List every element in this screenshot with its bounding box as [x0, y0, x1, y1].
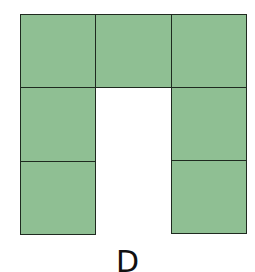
square-r2-c0 — [20, 161, 96, 235]
square-r0-c1 — [95, 14, 172, 88]
figure-label: D — [0, 247, 255, 272]
square-r2-c2 — [171, 160, 247, 234]
square-r0-c2 — [171, 14, 247, 88]
square-r1-c0 — [20, 87, 96, 162]
square-r1-c2 — [171, 87, 247, 162]
square-r0-c0 — [20, 14, 96, 88]
